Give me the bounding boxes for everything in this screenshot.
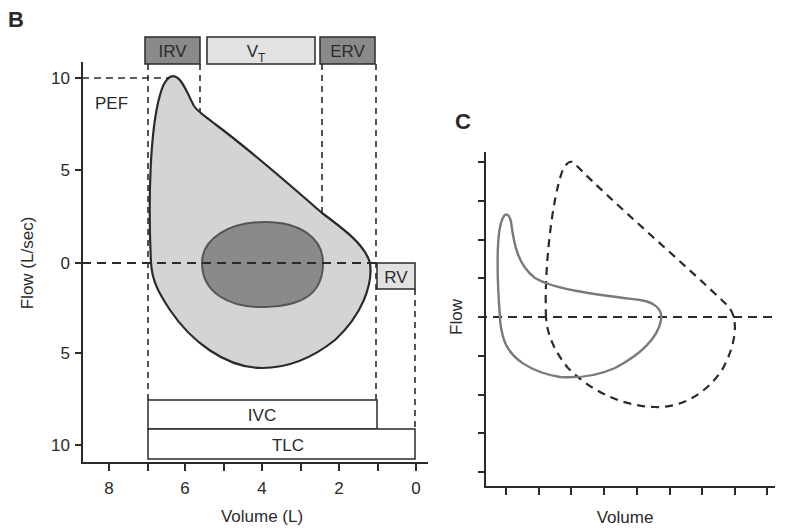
panel-c-axes — [478, 152, 775, 495]
erv-label: ERV — [330, 42, 365, 61]
svg-text:0: 0 — [411, 479, 420, 498]
tidal-loop — [202, 222, 323, 307]
vt-subscript: T — [258, 51, 266, 65]
rv-label: RV — [384, 268, 408, 287]
panel-c: C — [447, 109, 775, 527]
svg-text:0: 0 — [61, 254, 70, 273]
panel-c-label: C — [455, 109, 471, 134]
svg-text:5: 5 — [61, 161, 70, 180]
erv-box: ERV — [320, 37, 375, 64]
obstructive-loop-solid — [498, 215, 662, 378]
pef-label: PEF — [95, 94, 128, 113]
svg-text:10: 10 — [51, 69, 70, 88]
irv-box: IRV — [145, 37, 200, 64]
panel-b-x-tick-labels: 8 6 4 2 0 — [104, 479, 420, 498]
ivc-label: IVC — [248, 406, 276, 425]
panel-b-y-axis-title: Flow (L/sec) — [18, 217, 37, 310]
ivc-box: IVC — [148, 400, 377, 429]
svg-text:2: 2 — [334, 479, 343, 498]
svg-text:10: 10 — [51, 436, 70, 455]
panel-c-y-axis-title: Flow — [447, 298, 466, 335]
tlc-box: TLC — [148, 429, 415, 459]
panel-b: B IRV VT ERV RV PEF — [8, 7, 428, 526]
figure: B IRV VT ERV RV PEF — [0, 0, 785, 532]
vt-label: V — [247, 42, 259, 61]
svg-text:8: 8 — [104, 479, 113, 498]
rv-box: RV — [377, 263, 415, 289]
svg-text:5: 5 — [61, 344, 70, 363]
vt-box: VT — [207, 37, 315, 65]
panel-c-x-axis-title: Volume — [597, 508, 654, 527]
svg-text:6: 6 — [180, 479, 189, 498]
svg-text:4: 4 — [257, 479, 266, 498]
panel-b-y-tick-labels: 10 5 0 5 10 — [51, 69, 70, 455]
irv-label: IRV — [158, 42, 187, 61]
tlc-label: TLC — [272, 436, 304, 455]
panel-b-label: B — [8, 7, 24, 32]
normal-loop-dashed — [546, 162, 735, 407]
panel-b-x-axis-title: Volume (L) — [221, 507, 303, 526]
